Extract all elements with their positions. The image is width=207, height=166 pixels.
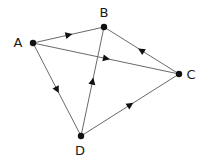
node-b [101, 24, 107, 30]
arrowhead-icon [136, 45, 146, 55]
node-label-c: C [186, 67, 195, 82]
edges-group [33, 27, 179, 136]
node-a [30, 40, 36, 46]
node-label-a: A [14, 35, 23, 50]
node-d [78, 133, 84, 139]
arrows-group [53, 31, 146, 110]
node-c [176, 71, 182, 77]
node-label-b: B [100, 5, 109, 20]
arrowhead-icon [126, 100, 136, 110]
arrowhead-icon [65, 31, 73, 39]
node-label-d: D [75, 143, 85, 158]
arrowhead-icon [102, 54, 110, 62]
arrowhead-icon [53, 85, 62, 94]
directed-graph-diagram: ABCD [0, 0, 207, 166]
graph-svg: ABCD [0, 0, 207, 166]
arrowhead-icon [88, 77, 96, 85]
